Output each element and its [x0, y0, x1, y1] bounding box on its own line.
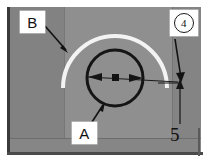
plate-border-left [7, 7, 10, 155]
plate-border-right-tick [198, 128, 200, 156]
plate-border-bottom [7, 152, 203, 155]
callout-label-b[interactable]: B [20, 11, 45, 33]
photo-edge-left [64, 7, 65, 155]
callout-a-text: A [79, 126, 90, 141]
figure-root: B A 4 5 [0, 0, 213, 168]
callout-label-a[interactable]: A [72, 122, 97, 144]
dimension-value-5: 5 [170, 125, 180, 144]
callout-label-4[interactable]: 4 [170, 10, 198, 36]
callout-b-text: B [27, 15, 38, 30]
circled-number-icon: 4 [174, 13, 194, 33]
